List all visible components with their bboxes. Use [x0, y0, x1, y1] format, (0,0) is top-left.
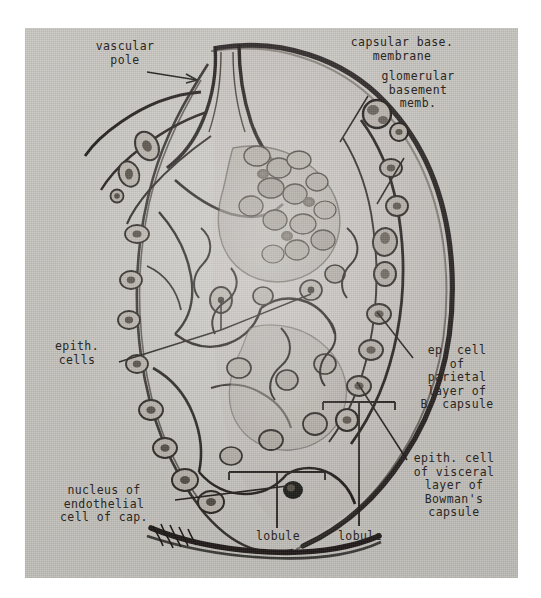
illustration-plate: vascular pole capsular base. membrane gl… [25, 28, 518, 578]
label-vascular-pole: vascular pole [61, 40, 189, 67]
figure-plate: vascular pole capsular base. membrane gl… [0, 0, 541, 598]
endothelial-nucleus-mark [283, 481, 303, 499]
label-epith-cells: epith. cells [31, 340, 123, 367]
label-lobule-left: lobule [241, 530, 315, 544]
label-glomerular-basement-memb: glomerular basement memb. [331, 70, 505, 111]
label-epith-cell-visceral-layer: epith. cell of visceral layer of Bowman'… [391, 452, 517, 520]
label-capsular-base-membrane: capsular base. membrane [313, 36, 491, 63]
label-lobule-right: lobule [323, 530, 397, 544]
leader-vascular-pole [147, 72, 197, 83]
label-ep-cell-parietal-layer: ep. cell of parietal layer of B. capsule [397, 344, 517, 412]
label-nucleus-endothelial-cell: nucleus of endothelial cell of cap. [33, 484, 175, 525]
